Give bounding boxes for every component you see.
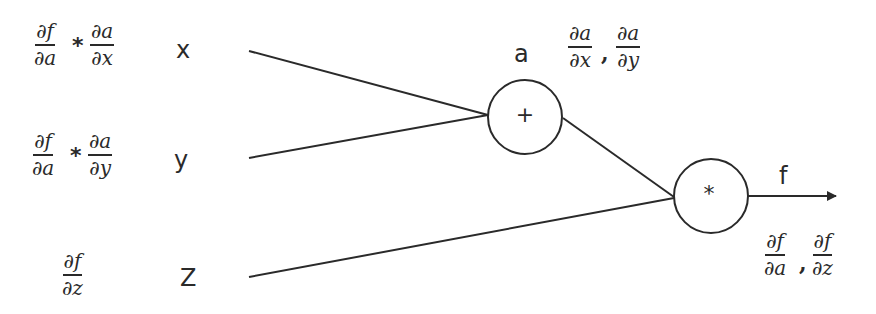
grad-z-frac: ∂f ∂z [62, 250, 83, 299]
frac-numerator: ∂a [88, 130, 112, 156]
frac-numerator: ∂f [813, 230, 833, 256]
frac-denominator: ∂a [764, 256, 786, 279]
frac-denominator: ∂a [34, 46, 56, 69]
edge-y-to-add [249, 115, 488, 158]
multiply-operator: * [70, 143, 82, 168]
frac-denominator: ∂x [91, 46, 113, 69]
grad-x-left-frac: ∂f ∂a [34, 20, 56, 69]
multiply-operator: * [72, 33, 84, 58]
mul-local-grad-a: ∂f ∂a [764, 230, 786, 279]
frac-denominator: ∂y [617, 48, 639, 71]
edge-x-to-add [249, 51, 488, 115]
frac-numerator: ∂f [35, 20, 55, 46]
frac-numerator: ∂f [63, 250, 83, 276]
frac-denominator: ∂y [89, 156, 111, 179]
grad-y-right-frac: ∂a ∂y [88, 130, 112, 179]
graph-canvas [0, 0, 876, 314]
grad-y-left-frac: ∂f ∂a [32, 130, 54, 179]
separator-comma: , [799, 250, 807, 276]
add-local-grad-x: ∂a ∂x [568, 22, 592, 71]
mul-node-symbol: * [694, 181, 724, 206]
input-label-x: x [176, 36, 190, 64]
frac-numerator: ∂f [765, 230, 785, 256]
frac-denominator: ∂x [569, 48, 591, 71]
frac-numerator: ∂a [568, 22, 592, 48]
separator-comma: , [601, 40, 609, 66]
input-label-z: Z [180, 264, 196, 292]
edge-z-to-mul [249, 198, 674, 277]
frac-denominator: ∂z [62, 276, 83, 299]
input-label-y: y [174, 146, 188, 174]
mul-local-grad-z: ∂f ∂z [812, 230, 833, 279]
frac-denominator: ∂z [812, 256, 833, 279]
add-node-symbol: + [510, 102, 540, 127]
edge-add-to-mul [563, 118, 674, 197]
frac-numerator: ∂a [616, 22, 640, 48]
frac-numerator: ∂f [33, 130, 53, 156]
add-node-output-label: a [514, 40, 529, 68]
frac-numerator: ∂a [90, 20, 114, 46]
frac-denominator: ∂a [32, 156, 54, 179]
grad-x-right-frac: ∂a ∂x [90, 20, 114, 69]
add-local-grad-y: ∂a ∂y [616, 22, 640, 71]
mul-node-output-label: f [779, 162, 787, 190]
